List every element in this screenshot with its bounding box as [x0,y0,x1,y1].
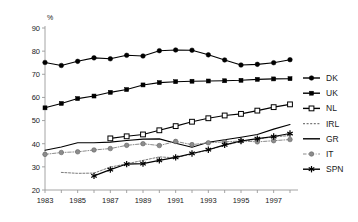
series-layer [43,48,293,179]
y-tick-label: 50 [32,116,40,125]
data-point-marker [173,139,178,144]
series-nl [108,102,292,141]
legend-item-it[interactable]: IT [303,149,334,159]
y-tick-label: 20 [32,186,40,195]
data-point-marker [288,137,293,142]
data-point-marker [288,57,293,62]
legend-item-dk[interactable]: DK [303,73,338,83]
y-axis-unit-label: % [47,14,53,21]
legend-item-irl[interactable]: IRL [303,119,340,129]
y-tick-label: 60 [32,93,40,102]
data-point-marker [76,97,80,101]
x-tick-label: 1987 [102,196,119,205]
x-tick-label: 1985 [69,196,86,205]
series-uk [43,77,292,110]
series-dk [43,48,293,68]
series-line [45,140,290,155]
data-point-marker [124,143,129,148]
legend-label: GR [326,134,339,144]
data-point-marker [92,94,96,98]
series-line [45,50,290,66]
data-point-marker [239,111,244,116]
legend-item-uk[interactable]: UK [303,88,338,98]
data-point-marker [92,56,97,61]
y-tick-label: 30 [32,163,40,172]
legend-label: UK [326,88,338,98]
legend-label: IT [326,149,334,159]
x-tick-label: 1997 [265,196,282,205]
data-point-marker [157,143,162,148]
data-point-marker [271,105,276,110]
y-tick-label: 90 [32,24,40,33]
y-tick-label: 70 [32,70,40,79]
data-point-marker [239,63,244,68]
data-point-marker [206,116,211,121]
data-point-marker [108,90,112,94]
legend-label: DK [326,73,338,83]
data-point-marker [271,60,276,65]
data-point-marker [157,128,162,133]
data-point-marker [125,88,129,92]
x-tick-label: 1991 [167,196,184,205]
data-point-marker [255,108,260,113]
x-tick-label: 1983 [37,196,54,205]
series-line [110,104,290,138]
line-chart: 2030405060708090198319851987198919911993… [0,0,358,222]
data-point-marker [223,79,227,83]
data-point-marker [108,146,113,151]
data-point-marker [43,60,48,65]
data-point-marker [59,63,64,68]
legend-label: IRL [326,119,340,129]
data-point-marker [43,106,47,110]
data-point-marker [124,134,129,139]
chart-canvas: 2030405060708090198319851987198919911993… [0,0,358,222]
data-point-marker [108,136,113,141]
data-point-marker [309,76,314,81]
data-point-marker [141,83,145,87]
x-tick-label: 1995 [233,196,250,205]
data-point-marker [124,53,129,58]
data-point-marker [190,48,195,53]
data-point-marker [190,79,194,83]
data-point-marker [108,56,113,61]
data-point-marker [157,48,162,53]
data-point-marker [43,152,48,157]
data-point-marker [255,62,260,67]
data-point-marker [190,142,195,147]
data-point-marker [174,80,178,84]
legend-label: SPN [326,164,343,174]
x-tick-label: 1993 [200,196,217,205]
data-point-marker [75,150,80,155]
series-spn [91,130,293,179]
data-point-marker [92,148,97,153]
data-point-marker [222,58,227,63]
data-point-marker [272,77,276,81]
x-tick-label: 1989 [135,196,152,205]
data-point-marker [255,77,259,81]
legend-item-gr[interactable]: GR [303,134,339,144]
data-point-marker [310,91,314,95]
legend-item-spn[interactable]: SPN [303,164,343,174]
y-tick-label: 40 [32,140,40,149]
data-point-marker [141,132,146,137]
data-point-marker [59,101,63,105]
series-line [45,79,290,108]
y-tick-label: 80 [32,47,40,56]
legend-item-nl[interactable]: NL [303,103,337,113]
legend-layer: DKUKNLIRLGRITSPN [303,73,343,174]
data-point-marker [288,77,292,81]
data-point-marker [173,48,178,53]
data-point-marker [239,78,243,82]
data-point-marker [91,173,97,179]
data-point-marker [173,124,178,129]
data-point-marker [309,106,314,111]
data-point-marker [59,150,64,155]
data-point-marker [206,140,211,145]
legend-label: NL [326,103,337,113]
data-point-marker [206,79,210,83]
data-point-marker [206,53,211,58]
data-point-marker [141,141,146,146]
data-point-marker [190,119,195,124]
data-point-marker [222,113,227,118]
data-point-marker [288,102,293,107]
